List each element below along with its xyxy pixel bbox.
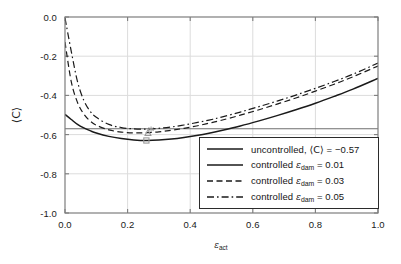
legend-item: controlled εdam = 0.05 [200,189,378,205]
x-tick-label: 0.8 [309,219,323,230]
legend-item: controlled εdam = 0.03 [200,173,378,189]
x-tick-label: 0.4 [183,219,197,230]
x-axis-label-subscript: act [219,244,228,251]
x-tick-label: 0.2 [121,219,135,230]
legend-label: controlled εdam = 0.01 [251,159,344,171]
y-tick-label: -0.6 [0,129,57,140]
y-tick-label: -0.4 [0,90,57,101]
legend-swatch-solid-thick [205,159,245,171]
legend-swatch-dashed [205,175,245,187]
x-tick-label: 0.0 [58,219,72,230]
figure-container: 0.00.20.40.60.81.0 0.0-0.2-0.4-0.6-0.8-1… [0,0,401,264]
y-tick-label: -1.0 [0,208,57,219]
legend-swatch-dash-dot [205,191,245,203]
y-axis-label: ⟨C⟩ [10,107,23,123]
y-tick-label: -0.8 [0,168,57,179]
chart-legend: uncontrolled, ⟨C⟩ = −0.57controlled εdam… [199,137,379,209]
legend-label: controlled εdam = 0.05 [251,191,344,203]
y-tick-label: -0.2 [0,51,57,62]
legend-item: controlled εdam = 0.01 [200,157,378,173]
x-tick-label: 1.0 [371,219,385,230]
legend-swatch-solid-thin [205,143,245,155]
x-tick-label: 0.6 [246,219,260,230]
x-axis-label: εact [214,240,227,251]
y-tick-label: 0.0 [0,12,57,23]
legend-label: controlled εdam = 0.03 [251,175,344,187]
legend-label: uncontrolled, ⟨C⟩ = −0.57 [251,144,359,155]
legend-item: uncontrolled, ⟨C⟩ = −0.57 [200,141,378,157]
